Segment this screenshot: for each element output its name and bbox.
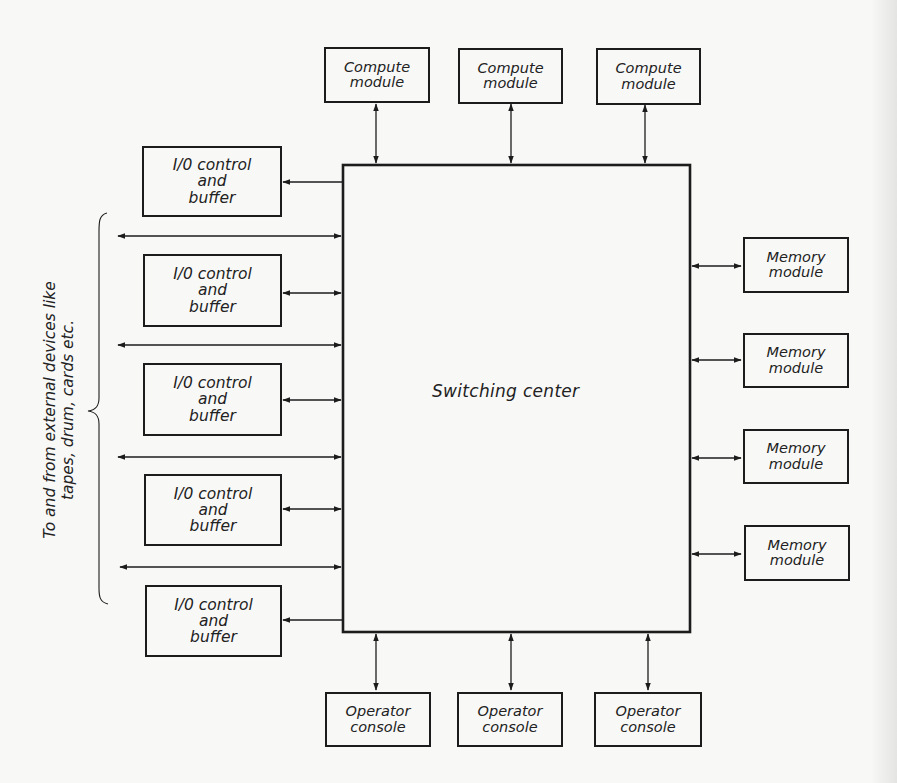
io-unit-label: and xyxy=(198,282,227,298)
memory-module-1: Memory module xyxy=(743,237,849,293)
io-unit-label: buffer xyxy=(189,408,236,424)
external-devices-annotation: To and from external devices like tapes,… xyxy=(42,230,78,590)
io-unit-label: and xyxy=(198,502,227,518)
io-unit-label: I/0 control xyxy=(173,157,252,173)
operator-console-label: Operator xyxy=(478,704,543,719)
operator-console-1: Operator console xyxy=(325,692,431,747)
io-unit-label: buffer xyxy=(190,518,237,534)
io-unit-label: I/0 control xyxy=(173,266,252,282)
memory-module-2: Memory module xyxy=(743,333,849,388)
io-unit-label: and xyxy=(198,391,227,407)
compute-module-label: Compute xyxy=(344,60,410,75)
operator-console-3: Operator console xyxy=(594,692,702,747)
io-unit-label: buffer xyxy=(189,190,236,206)
io-unit-4: I/0 control and buffer xyxy=(144,474,282,546)
memory-module-label: Memory xyxy=(767,250,826,265)
io-unit-5: I/0 control and buffer xyxy=(145,585,282,657)
compute-module-2: Compute module xyxy=(458,48,563,104)
external-devices-line-1: To and from external devices like xyxy=(42,230,60,590)
memory-module-label: module xyxy=(770,553,824,568)
io-unit-label: I/0 control xyxy=(173,375,252,391)
operator-console-label: console xyxy=(620,720,675,735)
operator-console-label: Operator xyxy=(346,704,411,719)
switching-center-label: Switching center xyxy=(432,381,579,401)
memory-module-label: module xyxy=(769,265,823,280)
io-unit-label: I/0 control xyxy=(174,597,253,613)
external-devices-line-2: tapes, drum, cards etc. xyxy=(60,230,78,590)
io-unit-label: and xyxy=(197,173,226,189)
compute-module-label: module xyxy=(483,76,537,91)
io-unit-label: and xyxy=(199,613,228,629)
operator-console-label: Operator xyxy=(616,704,681,719)
external-brace xyxy=(88,213,108,604)
compute-module-3: Compute module xyxy=(596,48,701,105)
io-unit-2: I/0 control and buffer xyxy=(143,254,282,327)
compute-module-label: Compute xyxy=(477,61,543,76)
compute-module-label: Compute xyxy=(615,61,681,76)
memory-module-label: module xyxy=(769,361,823,376)
compute-module-label: module xyxy=(621,77,675,92)
io-unit-3: I/0 control and buffer xyxy=(143,363,282,436)
memory-module-label: module xyxy=(769,457,823,472)
operator-console-label: console xyxy=(482,720,537,735)
memory-module-label: Memory xyxy=(767,345,826,360)
compute-module-1: Compute module xyxy=(324,47,430,103)
io-unit-label: buffer xyxy=(190,629,237,645)
io-unit-label: I/0 control xyxy=(174,486,253,502)
memory-module-label: Memory xyxy=(768,538,827,553)
operator-console-label: console xyxy=(350,720,405,735)
io-unit-1: I/0 control and buffer xyxy=(142,146,282,217)
compute-module-label: module xyxy=(350,75,404,90)
memory-module-label: Memory xyxy=(767,441,826,456)
memory-module-4: Memory module xyxy=(744,525,850,581)
operator-console-2: Operator console xyxy=(457,692,563,747)
memory-module-3: Memory module xyxy=(743,429,849,484)
io-unit-label: buffer xyxy=(189,299,236,315)
